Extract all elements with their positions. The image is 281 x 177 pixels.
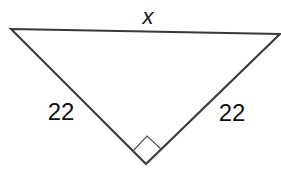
- right-leg-label: 22: [219, 99, 246, 126]
- hypotenuse-label: x: [142, 4, 155, 29]
- right-angle-marker: [133, 136, 161, 151]
- left-leg-label: 22: [48, 98, 75, 125]
- triangle-diagram: x 22 22: [0, 0, 281, 177]
- triangle: [11, 29, 280, 164]
